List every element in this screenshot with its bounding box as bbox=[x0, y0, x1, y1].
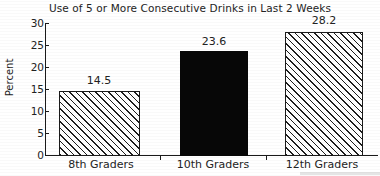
y-tick-mark-30 bbox=[45, 23, 49, 24]
y-tick-mark-25 bbox=[45, 45, 49, 46]
x-category-label-8th-graders: 8th Graders bbox=[68, 158, 134, 171]
y-tick-label-0: 0 bbox=[18, 150, 44, 161]
bar-12th-graders bbox=[285, 32, 363, 156]
x-category-label-10th-graders: 10th Graders bbox=[177, 158, 250, 171]
y-tick-mark-5 bbox=[45, 133, 49, 134]
x-category-label-12th-graders: 12th Graders bbox=[286, 158, 359, 171]
y-tick-label-30: 30 bbox=[18, 18, 44, 29]
x-tick-mark-2 bbox=[266, 155, 267, 160]
bar-value-8th-graders: 14.5 bbox=[87, 74, 112, 87]
y-tick-label-15: 15 bbox=[18, 84, 44, 95]
x-tick-mark-1 bbox=[160, 155, 161, 160]
scan-edge-artifact bbox=[300, 172, 380, 175]
bar-value-10th-graders: 23.6 bbox=[202, 35, 227, 48]
y-tick-label-25: 25 bbox=[18, 40, 44, 51]
y-tick-label-20: 20 bbox=[18, 62, 44, 73]
bar-10th-graders bbox=[180, 51, 248, 156]
y-tick-mark-20 bbox=[45, 67, 49, 68]
y-tick-label-5: 5 bbox=[18, 128, 44, 139]
plot-area: 30 25 20 15 10 5 0 14.5 23.6 28.2 bbox=[0, 0, 380, 176]
y-tick-mark-10 bbox=[45, 111, 49, 112]
y-tick-mark-15 bbox=[45, 89, 49, 90]
bar-chart: Use of 5 or More Consecutive Drinks in L… bbox=[0, 0, 380, 176]
bar-8th-graders bbox=[59, 91, 140, 156]
y-tick-label-10: 10 bbox=[18, 106, 44, 117]
y-tick-mark-0 bbox=[45, 155, 49, 156]
bar-value-12th-graders: 28.2 bbox=[312, 14, 337, 27]
